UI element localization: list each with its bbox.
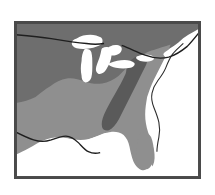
figure-root	[0, 0, 215, 195]
lake-michigan	[81, 49, 92, 83]
map-svg	[16, 23, 199, 177]
map-frame	[14, 21, 201, 179]
